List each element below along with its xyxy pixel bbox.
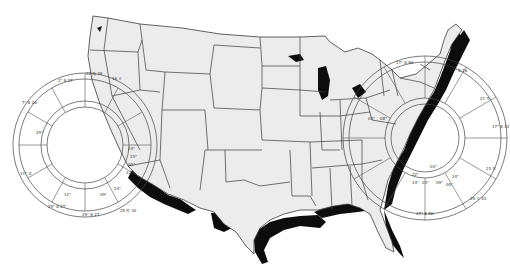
us-land [88,16,462,254]
planet-label: 23° [422,180,429,185]
cusp-label: 16 ♌ [112,76,122,81]
cusp-label: 29° 8 27 [48,204,66,209]
cusp-label: 7° 8 26 [22,100,37,105]
planet-label: 00° [446,182,453,187]
planet-label: 08° [380,116,387,121]
planet-label: 23° [130,154,137,159]
planet-label: 12° [64,192,71,197]
cusp-label: 17° 8 43 [492,124,510,129]
cusp-label: 29° 8 27 [82,212,100,217]
planet-label: 24° [128,146,135,151]
us-astrology-map: 2° 8 27 7° 8 26 22 ♍ 39 16 ♌ 11° ♊ 29° 8… [0,0,510,279]
cusp-label: 17° 8 56 [416,211,434,216]
cusp-label: 11° ♊ [20,171,32,176]
planet-label: 22° [412,172,419,177]
cusp-label: 23 ♋ [486,166,496,171]
cusp-label: 17° 8 16 [450,68,468,73]
planet-label: 29° [36,130,43,135]
planet-label: 12° [126,170,133,175]
planet-label: 03° [368,116,375,121]
planet-label: 03° [430,164,437,169]
cusp-label: 25 ♏ 30 [120,208,137,213]
planet-label: 14° [412,180,419,185]
planet-label: 00° [128,162,135,167]
planet-label: 09° [100,192,107,197]
cusp-label: 25 ♌ 43 [470,196,487,201]
cusp-label: 17° 8 56 [396,60,414,65]
cusp-label: 21 ♋ [480,96,490,101]
cusp-label: 22 ♍ 39 [86,71,103,76]
planet-label: 09° [436,180,443,185]
planet-label: 24° [452,174,459,179]
planet-label: 24° [114,186,121,191]
cusp-label: 2° 8 27 [58,78,73,83]
